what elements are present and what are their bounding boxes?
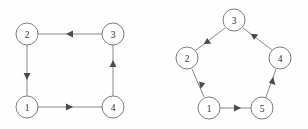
arrow-head-right bbox=[234, 105, 241, 112]
edge-3-to-2 bbox=[38, 31, 102, 38]
pentagon-graph: 1 2 3 4 5 bbox=[176, 9, 291, 119]
node-label: 3 bbox=[232, 16, 237, 26]
node-3[interactable]: 3 bbox=[102, 23, 124, 45]
graph-canvas: 1 2 3 4 bbox=[0, 0, 308, 129]
edge-1-to-4 bbox=[38, 104, 102, 111]
square-graph-edges bbox=[24, 31, 117, 111]
node-5[interactable]: 5 bbox=[251, 97, 273, 119]
square-graph: 1 2 3 4 bbox=[16, 23, 124, 118]
edge-2-to-1 bbox=[192, 69, 205, 97]
node-4[interactable]: 4 bbox=[102, 96, 124, 118]
node-1[interactable]: 1 bbox=[198, 97, 220, 119]
node-3[interactable]: 3 bbox=[223, 9, 245, 31]
node-label: 5 bbox=[260, 104, 265, 114]
pentagon-graph-nodes: 1 2 3 4 5 bbox=[176, 9, 291, 119]
node-label: 3 bbox=[111, 30, 116, 40]
edge-2-to-1 bbox=[24, 45, 31, 96]
edge-1-to-5 bbox=[220, 105, 251, 112]
square-graph-nodes: 1 2 3 4 bbox=[16, 23, 124, 118]
edge-line bbox=[196, 28, 225, 50]
edge-5-to-4 bbox=[266, 69, 276, 97]
node-1[interactable]: 1 bbox=[16, 96, 38, 118]
node-label: 4 bbox=[111, 103, 116, 113]
arrow-head-up-right bbox=[269, 77, 275, 85]
arrow-head-right bbox=[66, 104, 73, 111]
node-label: 1 bbox=[207, 104, 212, 114]
edge-4-to-3 bbox=[110, 45, 117, 96]
node-4[interactable]: 4 bbox=[269, 47, 291, 69]
edge-line bbox=[243, 28, 272, 50]
edge-3-to-2 bbox=[196, 28, 225, 50]
node-2[interactable]: 2 bbox=[176, 47, 198, 69]
arrow-head-down bbox=[24, 73, 31, 80]
node-label: 2 bbox=[25, 30, 30, 40]
node-label: 4 bbox=[278, 54, 283, 64]
node-label: 2 bbox=[185, 54, 190, 64]
figure-container: 1 2 3 4 bbox=[0, 0, 308, 129]
node-2[interactable]: 2 bbox=[16, 23, 38, 45]
node-label: 1 bbox=[25, 103, 30, 113]
arrow-head-up bbox=[110, 60, 117, 67]
edge-4-to-3 bbox=[243, 28, 272, 50]
arrow-head-left bbox=[66, 31, 73, 38]
